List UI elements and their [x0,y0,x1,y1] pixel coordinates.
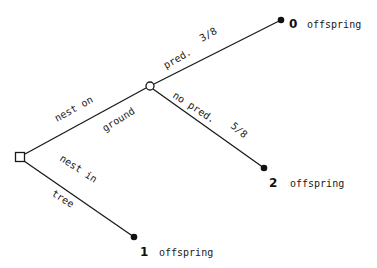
branch-predation [154,20,281,84]
chance-node-circle [146,82,154,90]
branch-no-predation [153,89,264,168]
label-tree: tree [50,187,76,209]
outcome-dot-tree [131,234,138,241]
outcome-dot-no-predation [261,165,268,172]
outcome-label-tree: offspring [159,247,213,258]
decision-tree-diagram: nest on ground nest in tree pred. 3/8 no… [0,0,377,268]
label-nest-in: nest in [58,152,99,184]
outcome-dot-predation [278,17,285,24]
outcome-value-predation: 0 [289,17,297,31]
outcome-value-tree: 1 [140,245,148,259]
outcome-label-predation: offspring [307,19,361,30]
label-no-pred-probability: 5/8 [229,120,250,140]
decision-node-square [16,153,25,162]
label-pred-probability: 3/8 [198,25,219,44]
outcome-value-no-predation: 2 [269,176,277,190]
outcome-label-no-predation: offspring [290,178,344,189]
